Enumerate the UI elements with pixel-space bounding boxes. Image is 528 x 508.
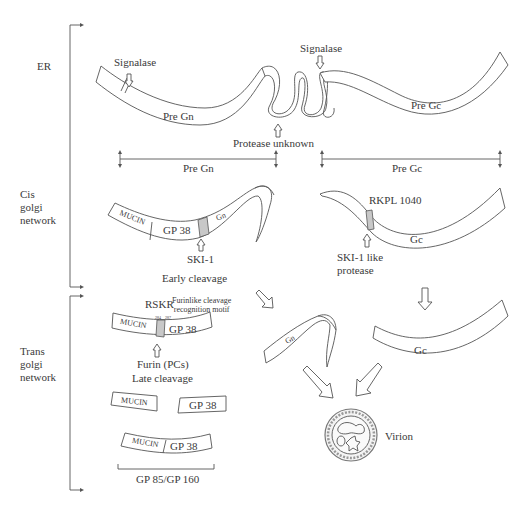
stage-label-trans-golgi: Trans golgi network (20, 345, 56, 384)
ski1-label: SKI-1 (187, 253, 214, 266)
gp85-gp160-label: GP 85/GP 160 (136, 473, 199, 486)
virion-icon (325, 409, 377, 461)
product-gn (264, 315, 336, 367)
ski1-like-arrow-icon (363, 234, 371, 247)
ski1-arrow-icon (197, 239, 205, 251)
gc-to-virion-arrow-icon (356, 363, 382, 396)
fragment-gp38-label: GP 38 (189, 399, 216, 412)
signalase-right-arrow-icon (316, 56, 324, 69)
position-287-label: 287 (165, 315, 171, 320)
diagram-graphics (0, 0, 528, 508)
product-gc-label: Gc (414, 344, 427, 357)
stage-bracket-trans (70, 294, 84, 492)
rskr-label: RSKR (145, 298, 174, 311)
protease-unknown-label: Protease unknown (233, 137, 314, 150)
product-gc (373, 300, 508, 353)
pre-gc-span-label: Pre Gc (392, 162, 422, 175)
late-cleavage-label: Late cleavage (132, 372, 193, 385)
furin-arrow-icon (153, 344, 161, 357)
virion-label: Virion (385, 430, 413, 443)
position-284-label: 284 (155, 315, 161, 320)
early-cleavage-label: Early cleavage (162, 272, 227, 285)
rkpl-label: RKPL 1040 (369, 194, 421, 207)
cis-gc-label: Gc (410, 233, 423, 246)
stage-bracket-er-cis (70, 23, 84, 289)
ski1-like-protease-label: SKI-1 like protease (337, 251, 383, 277)
cis-gp38-label: GP 38 (163, 224, 190, 237)
trans-gp38-label: GP 38 (169, 323, 196, 336)
gn-to-virion-arrow-icon (303, 366, 333, 398)
furinlike-motif-label: Furinlike cleavage recognition motif (172, 296, 231, 314)
stage-label-cis-golgi: Cis golgi network (20, 188, 56, 227)
joined-gp38-label: GP 38 (170, 440, 197, 453)
signalase-left-label: Signalase (114, 56, 156, 69)
arrow-to-gc-icon (418, 288, 432, 310)
gp85-bracket (118, 464, 214, 469)
pre-gn-span-label: Pre Gn (183, 162, 214, 175)
arrow-to-gn-icon (256, 290, 273, 308)
furin-pcs-label: Furin (PCs) (137, 358, 189, 371)
protease-unknown-arrow-icon (274, 124, 282, 137)
pre-gc-label: Pre Gc (411, 99, 441, 112)
glycoprotein-processing-diagram: ER Cis golgi network Trans golgi network… (0, 0, 528, 508)
pre-gn-label: Pre Gn (163, 110, 194, 123)
stage-label-er: ER (37, 60, 51, 73)
signalase-right-label: Signalase (300, 42, 342, 55)
